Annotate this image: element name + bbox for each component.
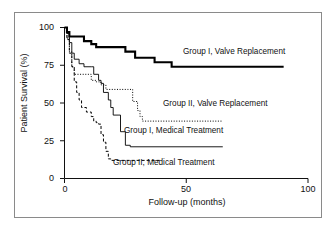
series-label-group-i-valve-replacement: Group I, Valve Replacement bbox=[183, 47, 285, 56]
y-tick-label-75: 75 bbox=[30, 60, 54, 70]
y-tick-label-100: 100 bbox=[30, 22, 54, 32]
series-label-group-i-medical-treatment: Group I, Medical Treatment bbox=[124, 126, 223, 135]
y-tick-label-25: 25 bbox=[30, 136, 54, 146]
y-axis-title: Patient Survival (%) bbox=[19, 33, 29, 153]
x-axis-title: Follow-up (months) bbox=[65, 197, 309, 207]
x-tick-label-100: 100 bbox=[293, 184, 323, 194]
y-tick-label-50: 50 bbox=[30, 98, 54, 108]
survival-chart-figure: Patient Survival (%) Follow-up (months) … bbox=[0, 0, 335, 231]
series-label-group-ii-medical-treatment: Group II, Medical Treatment bbox=[113, 158, 214, 167]
x-tick-marks bbox=[65, 179, 309, 184]
series-label-group-ii-valve-replacement: Group II, Valve Replacement bbox=[163, 99, 268, 108]
y-tick-label-0: 0 bbox=[30, 173, 54, 183]
x-tick-label-0: 0 bbox=[50, 184, 80, 194]
y-tick-marks bbox=[60, 28, 65, 179]
x-tick-label-50: 50 bbox=[171, 184, 201, 194]
